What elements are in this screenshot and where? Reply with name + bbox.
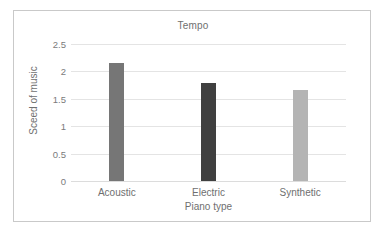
x-axis-title: Piano type bbox=[71, 201, 346, 212]
y-axis-tick-label: 0.5 bbox=[30, 148, 66, 159]
bar bbox=[109, 63, 124, 181]
x-axis-tick-label: Synthetic bbox=[257, 187, 343, 198]
plot-area bbox=[71, 44, 346, 181]
bar bbox=[201, 83, 216, 181]
y-axis-tick-label: 1.5 bbox=[30, 93, 66, 104]
y-axis-tick-labels: 00.511.522.5 bbox=[30, 44, 66, 181]
y-axis-tick-label: 2.5 bbox=[30, 39, 66, 50]
gridline bbox=[71, 181, 346, 182]
x-axis-tick-label: Electric bbox=[166, 187, 252, 198]
y-axis-tick-label: 0 bbox=[30, 176, 66, 187]
chart-title: Tempo bbox=[14, 20, 372, 31]
x-axis-tick-label: Acoustic bbox=[74, 187, 160, 198]
bar bbox=[293, 90, 308, 181]
y-axis-tick-label: 2 bbox=[30, 66, 66, 77]
chart-frame: Tempo Sceed of music 00.511.522.5 Acoust… bbox=[13, 10, 371, 222]
gridline bbox=[71, 44, 346, 45]
y-axis-tick-label: 1 bbox=[30, 121, 66, 132]
